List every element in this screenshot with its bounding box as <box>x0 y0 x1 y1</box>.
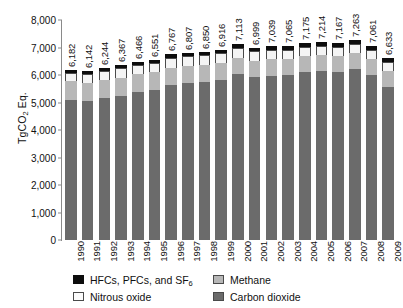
bar-segment <box>215 80 227 240</box>
bar-value-label: 6,633 <box>383 31 394 54</box>
bar-segment <box>382 87 394 240</box>
bar-segment <box>99 98 111 240</box>
bar-value-label: 6,807 <box>182 27 193 50</box>
bar-segment <box>149 72 161 90</box>
bar-segment <box>199 82 211 240</box>
chart-legend: HFCs, PFCs, and SF6MethaneNitrous oxideC… <box>73 271 373 305</box>
bar-segment <box>82 101 94 240</box>
x-axis-tick-label: 1994 <box>141 241 152 262</box>
bar-value-label: 6,767 <box>166 28 177 51</box>
bar-group[interactable]: 6,182 <box>65 20 77 240</box>
plot-area: 8,0007,0006,0005,0004,0003,0002,0001,000… <box>62 20 396 240</box>
bar-group[interactable]: 7,061 <box>366 20 378 240</box>
bar-segment <box>199 65 211 82</box>
bar-segment <box>282 50 294 59</box>
bar-group[interactable]: 6,916 <box>215 20 227 240</box>
bar-value-label: 6,551 <box>149 34 160 57</box>
bar-segment <box>65 73 77 82</box>
bar-segment <box>115 96 127 241</box>
bar-value-label: 6,182 <box>65 44 76 67</box>
bar-segment <box>249 77 261 240</box>
legend-item[interactable]: Carbon dioxide <box>213 291 373 303</box>
bar-group[interactable]: 6,244 <box>99 20 111 240</box>
legend-label: HFCs, PFCs, and SF6 <box>90 274 193 286</box>
bar-group[interactable]: 6,633 <box>382 20 394 240</box>
bar-segment <box>149 90 161 240</box>
x-axis-tick-label: 1993 <box>125 241 136 262</box>
bar-segment <box>232 58 244 75</box>
bar-group[interactable]: 7,039 <box>266 20 278 240</box>
bar-segment <box>215 63 227 80</box>
bar-segment <box>249 61 261 78</box>
bar-segment <box>332 47 344 56</box>
x-axis-tick-label: 1999 <box>225 241 236 262</box>
legend-item[interactable]: Nitrous oxide <box>73 291 213 303</box>
bar-value-label: 7,039 <box>266 20 277 43</box>
x-axis-tick-label: 2002 <box>275 241 286 262</box>
bar-segment <box>199 55 211 64</box>
bar-group[interactable]: 6,367 <box>115 20 127 240</box>
bar-segment <box>332 72 344 240</box>
bar-group[interactable]: 7,113 <box>232 20 244 240</box>
bar-value-label: 7,214 <box>316 15 327 38</box>
bar-segment <box>182 66 194 83</box>
bar-value-label: 7,167 <box>333 17 344 40</box>
bar-segment <box>299 56 311 72</box>
bar-group[interactable]: 7,175 <box>299 20 311 240</box>
bar-value-label: 6,850 <box>199 25 210 48</box>
bar-group[interactable]: 6,142 <box>82 20 94 240</box>
bar-segment <box>299 72 311 240</box>
bar-group[interactable]: 6,466 <box>132 20 144 240</box>
bar-segment <box>99 71 111 80</box>
bar-group[interactable]: 6,767 <box>165 20 177 240</box>
bar-segment <box>349 44 361 53</box>
x-axis-tick-label: 1996 <box>175 241 186 262</box>
legend-swatch-n2o <box>73 292 84 301</box>
bar-group[interactable]: 7,167 <box>332 20 344 240</box>
bar-segment <box>382 62 394 71</box>
bar-segment <box>165 58 177 67</box>
x-axis-tick-label: 1992 <box>108 241 119 262</box>
legend-item[interactable]: Methane <box>213 274 373 286</box>
bar-group[interactable]: 7,214 <box>316 20 328 240</box>
bar-value-label: 6,244 <box>99 42 110 65</box>
bar-segment <box>266 76 278 240</box>
bar-group[interactable]: 7,065 <box>282 20 294 240</box>
bar-stack: 6,182 <box>65 70 77 240</box>
bar-group[interactable]: 6,999 <box>249 20 261 240</box>
bar-segment <box>165 68 177 86</box>
legend-swatch-hfc <box>73 275 84 284</box>
bar-stack: 7,061 <box>366 46 378 240</box>
bar-stack: 6,466 <box>132 62 144 240</box>
x-axis-tick-label: 1998 <box>208 241 219 262</box>
legend-item[interactable]: HFCs, PFCs, and SF6 <box>73 274 213 286</box>
bar-stack: 6,850 <box>199 52 211 240</box>
bar-segment <box>316 71 328 240</box>
bar-value-label: 6,916 <box>216 24 227 47</box>
legend-label: Methane <box>230 274 271 286</box>
bar-stack: 6,807 <box>182 53 194 240</box>
bar-segment <box>232 48 244 57</box>
bar-stack: 7,167 <box>332 43 344 240</box>
y-axis-title: TgCO2 Eq. <box>16 68 28 168</box>
bar-group[interactable]: 6,850 <box>199 20 211 240</box>
bar-stack: 6,367 <box>115 65 127 240</box>
bar-segment <box>366 59 378 75</box>
bar-segment <box>382 71 394 87</box>
x-axis-tick-label: 2008 <box>375 241 386 262</box>
bar-group[interactable]: 6,807 <box>182 20 194 240</box>
bar-stack: 7,113 <box>232 44 244 240</box>
bar-stack: 6,142 <box>82 71 94 240</box>
bar-segment <box>366 50 378 59</box>
bar-segment <box>182 83 194 240</box>
bar-group[interactable]: 7,263 <box>349 20 361 240</box>
bar-segment <box>249 51 261 60</box>
bar-group[interactable]: 6,551 <box>149 20 161 240</box>
bar-stack: 7,263 <box>349 40 361 240</box>
bar-segment <box>282 59 294 75</box>
bar-value-label: 6,999 <box>249 21 260 44</box>
bar-segment <box>316 55 328 71</box>
bar-value-label: 6,466 <box>132 36 143 59</box>
bar-value-label: 7,263 <box>349 14 360 37</box>
